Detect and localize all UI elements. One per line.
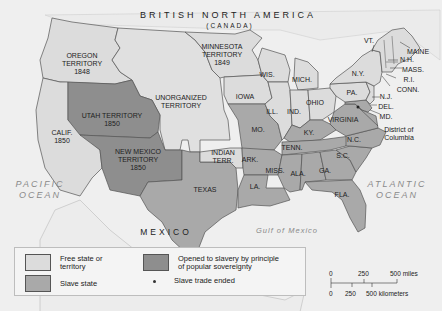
- label-minnesota: MINNESOTATERRITORY1849: [201, 43, 242, 67]
- label-pacific-ocean: PACIFICOCEAN: [16, 179, 65, 201]
- label-missouri: MO.: [251, 126, 264, 134]
- label-new-york: N.Y.: [352, 70, 365, 78]
- label-ohio: OHIO: [306, 99, 324, 107]
- label-unorganized: UNORGANIZEDTERRITORY: [155, 94, 207, 110]
- label-maine: MAINE: [407, 48, 429, 56]
- canada-title: BRITISH NORTH AMERICA: [140, 10, 316, 20]
- label-rhode-island: R.I.: [404, 76, 415, 84]
- label-arkansas: ARK.: [242, 156, 258, 164]
- label-oregon: OREGONTERRITORY1848: [62, 52, 102, 76]
- scale-km-0: 0: [329, 290, 333, 297]
- scale-km-500: 500 kilometers: [366, 290, 408, 297]
- label-utah: UTAH TERRITORY1850: [82, 112, 143, 128]
- dot-icon: [153, 280, 156, 283]
- label-california: CALIF.1850: [51, 129, 72, 145]
- legend-popular-sovereignty: Opened to slavery by principleof popular…: [143, 254, 279, 271]
- label-south-carolina: S.C.: [336, 152, 350, 160]
- label-wisconsin: WIS.: [259, 71, 274, 79]
- scale-miles-250: 250: [358, 270, 369, 277]
- legend-popular-sovereignty-label: Opened to slavery by principleof popular…: [178, 255, 279, 271]
- legend-free-label: Free state orterritory: [60, 255, 103, 271]
- legend-slave-trade-label: Slave trade ended: [174, 277, 235, 285]
- scale-miles-0: 0: [329, 270, 333, 277]
- scale-km-250: 250: [345, 290, 356, 297]
- label-north-carolina: N.C.: [347, 136, 361, 144]
- label-massachusetts: MASS.: [402, 66, 424, 74]
- label-mississippi: MISS.: [265, 167, 284, 175]
- label-iowa: IOWA: [236, 93, 254, 101]
- label-florida: FLA.: [335, 191, 350, 199]
- label-louisiana: LA.: [250, 183, 261, 191]
- label-virginia: VIRGINIA: [328, 116, 359, 124]
- legend-slave-trade: Slave trade ended: [143, 277, 235, 285]
- label-georgia: GA.: [319, 167, 331, 175]
- free-swatch: [25, 254, 51, 271]
- label-indian-territory: INDIANTERR.: [211, 149, 235, 165]
- label-new-hampshire: N.H.: [400, 56, 414, 64]
- scale-bar: 0 250 500 miles 0 250 500 kilometers: [326, 270, 426, 300]
- label-pennsylvania: PA.: [347, 89, 358, 97]
- label-maryland: MD.: [380, 113, 393, 121]
- popular-sovereignty-swatch: [143, 254, 169, 271]
- label-kentucky: KY.: [304, 129, 314, 137]
- label-atlantic-ocean: ATLANTICOCEAN: [368, 179, 427, 201]
- legend: Free state orterritory Slave state Opene…: [14, 247, 306, 296]
- label-district-of-columbia: District ofColumbia: [384, 126, 414, 142]
- canada-subtitle: (CANADA): [206, 22, 253, 29]
- legend-slave-label: Slave state: [60, 280, 97, 288]
- label-alabama: ALA.: [290, 170, 305, 178]
- label-michigan: MICH.: [292, 76, 312, 84]
- label-mexico: MEXICO: [140, 227, 192, 237]
- label-new-jersey: N.J.: [380, 93, 392, 101]
- scale-miles-500: 500 miles: [390, 270, 418, 277]
- legend-slave: Slave state: [25, 275, 97, 292]
- label-indiana: IND.: [287, 108, 301, 116]
- slave-swatch: [25, 275, 51, 292]
- label-tennessee: TENN.: [282, 144, 303, 152]
- label-delaware: DEL.: [378, 103, 394, 111]
- label-connecticut: CONN.: [397, 86, 420, 94]
- label-gulf-of-mexico: Gulf of Mexico: [256, 226, 318, 235]
- label-vermont: VT.: [364, 37, 374, 45]
- legend-free: Free state orterritory: [25, 254, 103, 271]
- label-new-mexico: NEW MEXICOTERRITORY1850: [115, 148, 161, 172]
- label-illinois: ILL.: [266, 108, 278, 116]
- label-texas: TEXAS: [194, 186, 217, 194]
